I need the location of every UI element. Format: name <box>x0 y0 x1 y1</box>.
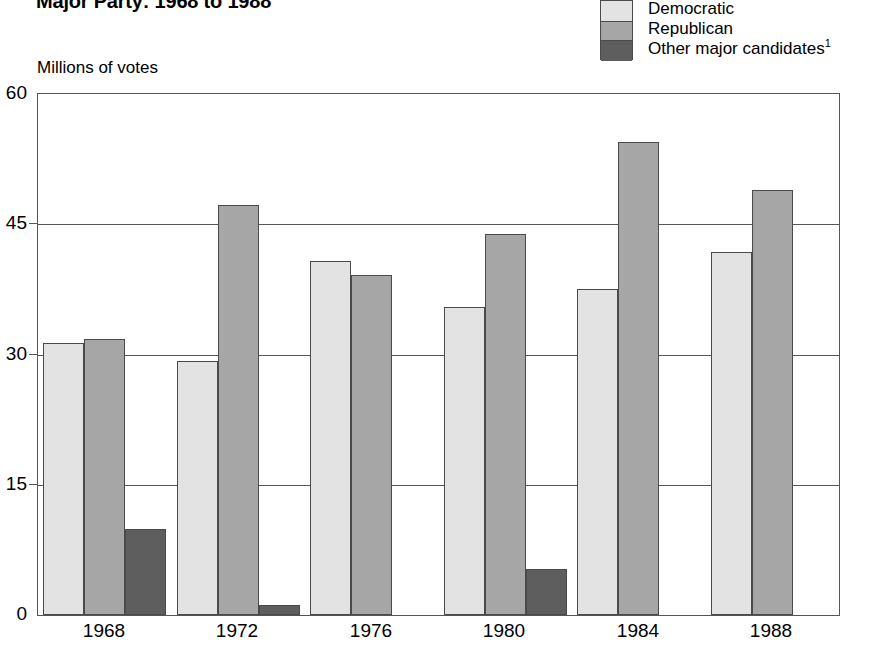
bar-1968-other <box>125 529 166 615</box>
bar-group-1988 <box>711 94 834 615</box>
bar-1976-republican <box>351 275 392 615</box>
bar-1980-democratic <box>444 307 485 615</box>
legend-swatch-stack <box>600 0 633 60</box>
y-tick-label-30: 30 <box>6 343 27 365</box>
legend-label-other-text: Other major candidates <box>648 39 825 58</box>
bar-1972-other <box>259 605 300 615</box>
legend-label-republican: Republican <box>648 19 733 39</box>
y-axis-tick-labels: 015304560 <box>0 93 37 614</box>
bar-1980-other <box>526 569 567 615</box>
x-tick-label-1980: 1980 <box>483 620 525 642</box>
bar-group-1980 <box>444 94 567 615</box>
y-tick-label-60: 60 <box>6 82 27 104</box>
legend-label-other: Other major candidates1 <box>648 39 831 59</box>
bar-1988-democratic <box>711 252 752 615</box>
page-title: Major Party: 1968 to 1988 <box>36 0 271 13</box>
legend-swatch-republican <box>601 21 632 41</box>
bar-group-1984 <box>577 94 700 615</box>
bar-1972-republican <box>218 205 259 615</box>
legend-label-democratic: Democratic <box>648 0 734 19</box>
bar-group-1968 <box>43 94 166 615</box>
x-tick-label-1988: 1988 <box>750 620 792 642</box>
bar-1968-democratic <box>43 343 84 615</box>
bar-1972-democratic <box>177 361 218 615</box>
bar-1968-republican <box>84 339 125 615</box>
bar-1980-republican <box>485 234 526 615</box>
bar-group-1972 <box>177 94 300 615</box>
legend-swatch-other <box>601 41 632 61</box>
chart-legend: Democratic Republican Other major candid… <box>600 0 876 64</box>
x-tick-label-1972: 1972 <box>216 620 258 642</box>
y-tick-mark-45 <box>29 223 37 224</box>
bar-1976-democratic <box>310 261 351 615</box>
x-tick-label-1968: 1968 <box>83 620 125 642</box>
x-axis-tick-labels: 196819721976198019841988 <box>37 617 838 646</box>
legend-swatch-democratic <box>601 1 632 21</box>
plot-area <box>37 93 840 616</box>
bar-1984-republican <box>618 142 659 615</box>
x-tick-label-1976: 1976 <box>350 620 392 642</box>
y-tick-label-15: 15 <box>6 473 27 495</box>
y-tick-mark-30 <box>29 354 37 355</box>
bar-1984-democratic <box>577 289 618 615</box>
bar-1988-republican <box>752 190 793 615</box>
y-tick-label-0: 0 <box>16 603 27 625</box>
y-tick-mark-15 <box>29 484 37 485</box>
legend-footnote-marker: 1 <box>825 37 831 49</box>
y-tick-label-45: 45 <box>6 212 27 234</box>
x-tick-label-1984: 1984 <box>617 620 659 642</box>
y-axis-caption: Millions of votes <box>37 58 158 78</box>
bar-group-1976 <box>310 94 433 615</box>
